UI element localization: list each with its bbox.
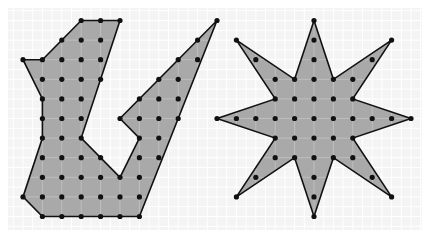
lattice-dot bbox=[273, 96, 278, 101]
lattice-dot bbox=[389, 194, 394, 199]
lattice-dot bbox=[408, 116, 413, 121]
lattice-dot bbox=[331, 155, 336, 160]
lattice-dot bbox=[59, 38, 64, 43]
lattice-dot bbox=[311, 175, 316, 180]
lattice-dot bbox=[79, 116, 84, 121]
lattice-dot bbox=[79, 175, 84, 180]
lattice-dot bbox=[137, 214, 142, 219]
lattice-dot bbox=[79, 214, 84, 219]
lattice-dot bbox=[176, 57, 181, 62]
lattice-dot bbox=[20, 57, 25, 62]
lattice-dot bbox=[156, 77, 161, 82]
lattice-dot bbox=[59, 155, 64, 160]
lattice-dot bbox=[176, 96, 181, 101]
lattice-dot bbox=[311, 77, 316, 82]
lattice-dot bbox=[176, 77, 181, 82]
lattice-dot bbox=[59, 136, 64, 141]
lattice-dot bbox=[137, 136, 142, 141]
lattice-dot bbox=[59, 77, 64, 82]
lattice-dot bbox=[79, 77, 84, 82]
lattice-dot bbox=[156, 136, 161, 141]
lattice-dot bbox=[40, 136, 45, 141]
lattice-dot bbox=[79, 38, 84, 43]
lattice-dot bbox=[370, 116, 375, 121]
lattice-dot bbox=[156, 155, 161, 160]
lattice-dot bbox=[331, 136, 336, 141]
lattice-dot bbox=[311, 18, 316, 23]
lattice-dot bbox=[273, 136, 278, 141]
lattice-dot bbox=[331, 96, 336, 101]
lattice-dot bbox=[176, 116, 181, 121]
lattice-dot bbox=[234, 38, 239, 43]
lattice-dot bbox=[79, 57, 84, 62]
lattice-dot bbox=[311, 57, 316, 62]
lattice-dot bbox=[98, 155, 103, 160]
lattice-dot bbox=[20, 194, 25, 199]
lattice-dot bbox=[79, 18, 84, 23]
lattice-dot bbox=[40, 155, 45, 160]
lattice-dot bbox=[292, 77, 297, 82]
lattice-dot bbox=[273, 155, 278, 160]
lattice-dot bbox=[311, 38, 316, 43]
lattice-dot bbox=[98, 77, 103, 82]
lattice-dot bbox=[234, 116, 239, 121]
lattice-dot bbox=[79, 136, 84, 141]
lattice-dot bbox=[311, 96, 316, 101]
lattice-dot bbox=[273, 116, 278, 121]
lattice-dot bbox=[117, 194, 122, 199]
lattice-dot bbox=[253, 175, 258, 180]
lattice-dot bbox=[331, 116, 336, 121]
lattice-dot bbox=[253, 57, 258, 62]
lattice-dot bbox=[292, 116, 297, 121]
lattice-dot bbox=[98, 38, 103, 43]
lattice-dot bbox=[40, 194, 45, 199]
lattice-dot bbox=[195, 38, 200, 43]
lattice-dot bbox=[311, 136, 316, 141]
lattice-dot bbox=[98, 175, 103, 180]
lattice-dot bbox=[311, 194, 316, 199]
lattice-dot bbox=[59, 214, 64, 219]
lattice-dot bbox=[59, 96, 64, 101]
lattice-dot bbox=[350, 96, 355, 101]
lattice-dot bbox=[370, 175, 375, 180]
lattice-dot bbox=[156, 96, 161, 101]
lattice-dot bbox=[234, 194, 239, 199]
lattice-dot bbox=[117, 214, 122, 219]
lattice-dot bbox=[59, 194, 64, 199]
lattice-dot bbox=[40, 57, 45, 62]
lattice-dot bbox=[214, 18, 219, 23]
lattice-dot bbox=[40, 96, 45, 101]
lattice-dot bbox=[389, 116, 394, 121]
lattice-dot bbox=[117, 116, 122, 121]
lattice-dot bbox=[311, 214, 316, 219]
lattice-dot bbox=[59, 57, 64, 62]
lattice-dot bbox=[311, 116, 316, 121]
lattice-dot bbox=[117, 175, 122, 180]
lattice-dot bbox=[98, 57, 103, 62]
lattice-dot bbox=[40, 214, 45, 219]
lattice-dot bbox=[350, 77, 355, 82]
lattice-dot bbox=[137, 155, 142, 160]
lattice-dot bbox=[117, 18, 122, 23]
lattice-dot bbox=[40, 77, 45, 82]
lattice-dot bbox=[156, 116, 161, 121]
lattice-dot bbox=[273, 77, 278, 82]
lattice-dot bbox=[98, 194, 103, 199]
lattice-dot bbox=[98, 214, 103, 219]
lattice-dot bbox=[137, 96, 142, 101]
lattice-dot bbox=[389, 38, 394, 43]
lattice-dot bbox=[79, 96, 84, 101]
lattice-dot bbox=[59, 116, 64, 121]
lattice-dot bbox=[195, 57, 200, 62]
lattice-dot bbox=[350, 116, 355, 121]
lattice-dot bbox=[137, 116, 142, 121]
lattice-dot bbox=[370, 57, 375, 62]
lattice-dot bbox=[253, 116, 258, 121]
lattice-dot bbox=[350, 155, 355, 160]
lattice-dot bbox=[331, 77, 336, 82]
lattice-dot bbox=[59, 175, 64, 180]
lattice-dot bbox=[98, 18, 103, 23]
lattice-dot bbox=[311, 155, 316, 160]
lattice-dot bbox=[292, 155, 297, 160]
lattice-dot bbox=[40, 116, 45, 121]
